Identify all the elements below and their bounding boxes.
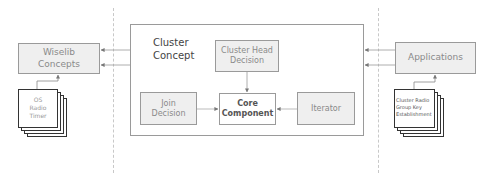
arrow-docs-to-wiselib (37, 75, 58, 89)
connectors (0, 0, 494, 177)
arrow-docs-to-applications (414, 75, 435, 89)
